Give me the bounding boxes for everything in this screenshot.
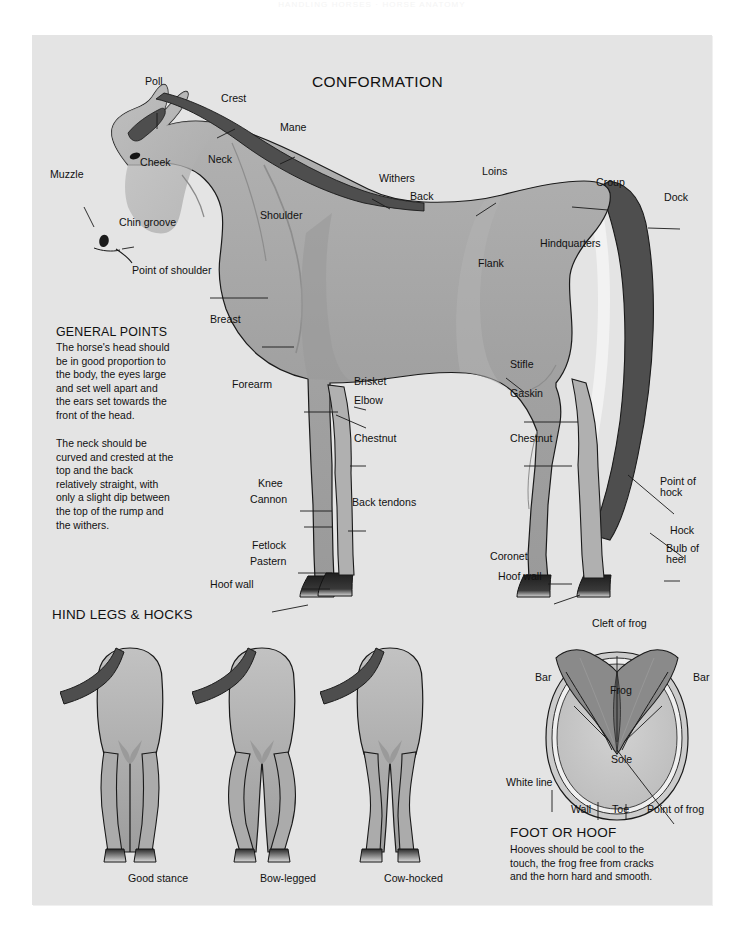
label-withers: Withers [379, 173, 415, 184]
label-cannon: Cannon [250, 494, 287, 505]
label-muzzle: Muzzle [50, 169, 84, 180]
label-breast: Breast [210, 314, 241, 325]
label-flank: Flank [478, 258, 504, 269]
label-hindquarters: Hindquarters [540, 238, 601, 249]
label-bar-right: Bar [693, 672, 710, 683]
hind-legs-figure-good-stance [60, 630, 200, 880]
caption-bow-legged: Bow-legged [260, 872, 316, 884]
hind-legs-heading: HIND LEGS & HOCKS [52, 607, 193, 622]
hind-legs-figure-bow-legged [192, 630, 332, 880]
label-white-line: White line [506, 777, 553, 788]
illustration-panel: CONFORMATION GENERAL POINTS The horse's … [32, 35, 712, 905]
label-hock: Hock [670, 525, 694, 536]
label-point-of-shoulder: Point of shoulder [132, 265, 212, 276]
hoof-right [398, 849, 420, 862]
label-neck: Neck [208, 154, 232, 165]
label-brisket: Brisket [354, 376, 386, 387]
label-poll: Poll [145, 76, 163, 87]
foot-or-hoof-paragraph: Hooves should be cool to the touch, the … [510, 843, 720, 884]
label-toe: Toe [612, 804, 629, 815]
label-chestnut-front: Chestnut [354, 433, 396, 444]
general-points-heading: GENERAL POINTS [56, 325, 167, 339]
caption-good-stance: Good stance [128, 872, 188, 884]
label-hoof-wall-front: Hoof wall [210, 579, 254, 590]
label-fetlock: Fetlock [252, 540, 286, 551]
label-cleft-of-frog: Cleft of frog [592, 618, 647, 629]
page-root: HANDLING HORSES · HORSE ANATOMY [0, 0, 744, 938]
label-forearm: Forearm [232, 379, 272, 390]
hoof-left [234, 849, 256, 862]
label-point-of-frog: Point of frog [647, 804, 704, 815]
label-point-of-hock: Point of hock [660, 476, 696, 498]
label-elbow: Elbow [354, 395, 383, 406]
general-points-paragraph-2: The neck should be curved and crested at… [56, 437, 236, 532]
hind-legs-figure-cow-hocked [320, 630, 460, 880]
label-pastern: Pastern [250, 556, 287, 567]
label-coronet: Coronet [490, 551, 528, 562]
running-head: HANDLING HORSES · HORSE ANATOMY [0, 0, 744, 9]
hoof-right [134, 849, 156, 862]
label-bulb-of-heel: Bulb of heel [666, 543, 699, 565]
label-wall: Wall [571, 804, 591, 815]
conformation-title: CONFORMATION [312, 73, 443, 91]
hoof-left [104, 849, 126, 862]
label-sole: Sole [611, 754, 632, 765]
label-croup: Croup [596, 177, 625, 188]
label-hoof-wall-hind: Hoof wall [498, 571, 542, 582]
label-mane: Mane [280, 122, 307, 133]
label-chestnut-hind: Chestnut [510, 433, 552, 444]
hoof-left [360, 849, 382, 862]
label-back-tendons: Back tendons [352, 497, 416, 508]
hoof-right [268, 849, 290, 862]
label-dock: Dock [664, 192, 688, 203]
foot-or-hoof-heading: FOOT OR HOOF [510, 825, 616, 840]
horse-nostril [99, 235, 109, 247]
caption-cow-hocked: Cow-hocked [384, 872, 443, 884]
label-crest: Crest [221, 93, 246, 104]
label-cheek: Cheek [140, 157, 171, 168]
label-shoulder: Shoulder [260, 210, 302, 221]
label-loins: Loins [482, 166, 507, 177]
label-chin-groove: Chin groove [119, 217, 176, 228]
label-stifle: Stifle [510, 359, 534, 370]
label-knee: Knee [258, 478, 283, 489]
general-points-paragraph-1: The horse's head should be in good propo… [56, 341, 236, 423]
horse-chin [116, 249, 132, 263]
label-gaskin: Gaskin [510, 388, 543, 399]
label-back: Back [410, 191, 434, 202]
label-frog: Frog [610, 685, 632, 696]
label-bar-left: Bar [535, 672, 552, 683]
